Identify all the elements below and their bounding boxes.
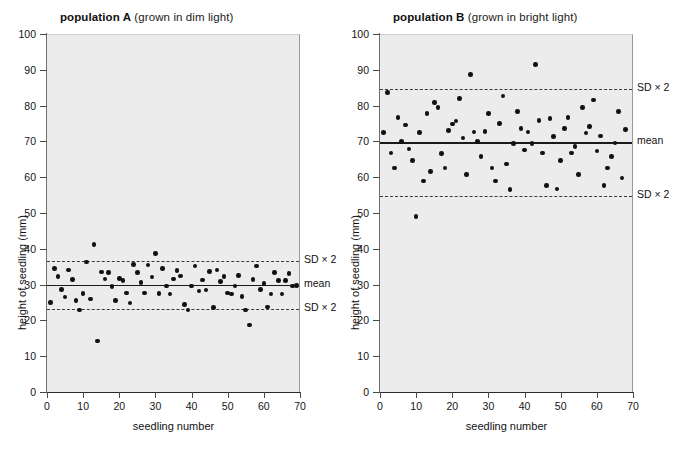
data-point xyxy=(580,105,585,110)
y-tick-label-a: 0 xyxy=(0,386,36,398)
data-point xyxy=(595,149,600,154)
x-tick-label-a: 70 xyxy=(285,400,315,412)
x-tick-b xyxy=(416,392,417,398)
data-point xyxy=(461,136,466,141)
data-point xyxy=(139,280,144,285)
sd2-lower-line-a xyxy=(47,309,299,310)
data-point xyxy=(410,158,415,163)
data-point xyxy=(124,291,129,296)
data-point xyxy=(468,72,473,77)
data-point xyxy=(272,270,277,275)
data-point xyxy=(439,151,444,156)
data-point xyxy=(294,283,299,288)
data-point xyxy=(77,308,82,313)
x-tick-label-b: 30 xyxy=(473,400,503,412)
y-tick-b xyxy=(373,356,380,357)
data-point xyxy=(389,151,394,156)
data-point xyxy=(403,123,408,128)
data-point xyxy=(576,172,581,177)
sd2-upper-label-b: SD × 2 xyxy=(637,81,669,93)
data-point xyxy=(66,268,71,273)
chart-title-a-sub: (grown in dim light) xyxy=(131,11,233,23)
x-tick-a xyxy=(228,392,229,398)
data-point xyxy=(562,126,567,131)
data-point xyxy=(493,179,498,184)
data-point xyxy=(609,154,614,159)
data-point xyxy=(240,294,245,299)
y-tick-b xyxy=(373,177,380,178)
data-point xyxy=(99,270,104,275)
data-point xyxy=(620,176,625,181)
mean-line-a xyxy=(47,285,299,287)
data-point xyxy=(573,144,578,149)
data-point xyxy=(428,169,433,174)
y-tick-label-b: 0 xyxy=(333,386,369,398)
data-point xyxy=(160,266,165,271)
data-point xyxy=(164,284,169,289)
y-tick-label-b: 60 xyxy=(333,171,369,183)
data-point xyxy=(251,277,256,282)
data-point xyxy=(254,264,259,269)
sd2-upper-line-b xyxy=(380,89,632,90)
chart-title-b: population B (grown in bright light) xyxy=(393,11,673,23)
data-point xyxy=(193,264,198,269)
data-point xyxy=(457,96,462,101)
y-tick-a xyxy=(40,34,47,35)
data-point xyxy=(211,305,216,310)
data-point xyxy=(569,151,574,156)
y-tick-b xyxy=(373,34,380,35)
chart-title-b-sub: (grown in bright light) xyxy=(464,11,577,23)
data-point xyxy=(479,154,484,159)
data-point xyxy=(207,269,212,274)
data-point xyxy=(504,162,509,167)
data-point xyxy=(146,263,151,268)
data-point xyxy=(544,183,549,188)
x-tick-b xyxy=(452,392,453,398)
x-tick-a xyxy=(155,392,156,398)
data-point xyxy=(432,100,437,105)
x-tick-b xyxy=(525,392,526,398)
data-point xyxy=(537,118,542,123)
data-point xyxy=(616,109,621,114)
y-tick-label-b: 10 xyxy=(333,350,369,362)
x-axis-line-a xyxy=(46,392,301,393)
x-tick-label-a: 10 xyxy=(68,400,98,412)
y-tick-a xyxy=(40,70,47,71)
x-tick-label-b: 60 xyxy=(582,400,612,412)
y-tick-a xyxy=(40,106,47,107)
plot-area-b xyxy=(380,34,633,392)
data-point xyxy=(95,339,100,344)
data-point xyxy=(150,275,155,280)
y-tick-a xyxy=(40,213,47,214)
x-axis-line-b xyxy=(379,392,634,393)
data-point xyxy=(287,271,292,276)
data-point xyxy=(501,94,506,99)
data-point xyxy=(258,287,263,292)
data-point xyxy=(605,166,610,171)
data-point xyxy=(59,287,64,292)
data-point xyxy=(262,281,267,286)
y-tick-label-b: 80 xyxy=(333,100,369,112)
chart-panel-population-b: population B (grown in bright light) 010… xyxy=(333,0,666,452)
y-tick-a xyxy=(40,285,47,286)
y-tick-label-a: 70 xyxy=(0,135,36,147)
data-point xyxy=(153,251,158,256)
data-point xyxy=(247,323,252,328)
data-point xyxy=(74,298,79,303)
y-axis-title-a: height of seedling (mm) xyxy=(16,215,28,330)
data-point xyxy=(392,166,397,171)
data-point xyxy=(533,62,538,67)
x-tick-label-b: 40 xyxy=(510,400,540,412)
data-point xyxy=(131,262,136,267)
data-point xyxy=(283,278,288,283)
data-point xyxy=(623,127,628,132)
x-tick-label-a: 40 xyxy=(177,400,207,412)
data-point xyxy=(113,298,118,303)
data-point xyxy=(243,308,248,313)
chart-title-b-bold: population B xyxy=(393,11,464,23)
x-tick-label-b: 70 xyxy=(618,400,648,412)
data-point xyxy=(84,260,89,265)
y-tick-label-a: 10 xyxy=(0,350,36,362)
data-point xyxy=(178,274,183,279)
